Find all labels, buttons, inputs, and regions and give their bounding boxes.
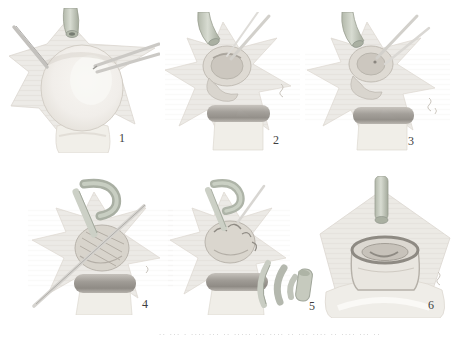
tracheal-dark-band bbox=[353, 107, 414, 124]
opened-larynx-graft-site bbox=[75, 225, 129, 271]
cartilage-strip-mid bbox=[277, 268, 284, 302]
endotracheal-tube bbox=[375, 176, 388, 224]
endotracheal-tube bbox=[198, 12, 220, 47]
surgical-step-panel-4 bbox=[28, 178, 173, 315]
figure-plate: 1 2 3 4 5 6 ·· ··· · ···· ··· ·· ····· ·… bbox=[0, 0, 456, 338]
endotracheal-tube bbox=[63, 8, 78, 38]
cartilage-graft-pieces bbox=[254, 252, 316, 310]
surgical-step-panel-2 bbox=[165, 12, 300, 152]
step-number-6: 6 bbox=[428, 299, 434, 311]
larynx-body bbox=[41, 45, 123, 131]
suture-point bbox=[373, 60, 376, 63]
figure-caption: ·· ··· · ···· ··· ·· ····· ··· ···· ·· ·… bbox=[146, 331, 394, 338]
step-number-1: 1 bbox=[119, 132, 125, 144]
step-number-3: 3 bbox=[408, 135, 414, 147]
step-number-2: 2 bbox=[273, 134, 279, 146]
cartilage-strip-long bbox=[260, 263, 270, 305]
tracheal-dark-band bbox=[74, 274, 136, 293]
surgical-step-panel-3 bbox=[305, 12, 450, 152]
reconstructed-cylinder bbox=[351, 237, 419, 290]
surgical-step-panel-6 bbox=[318, 176, 455, 318]
surgical-step-panel-1 bbox=[5, 8, 160, 153]
step-number-5: 5 bbox=[309, 300, 315, 312]
step-number-4: 4 bbox=[142, 298, 148, 310]
cartilage-block bbox=[295, 268, 313, 302]
cartilage-strip-short bbox=[290, 277, 295, 297]
tracheal-dark-band bbox=[207, 105, 270, 122]
